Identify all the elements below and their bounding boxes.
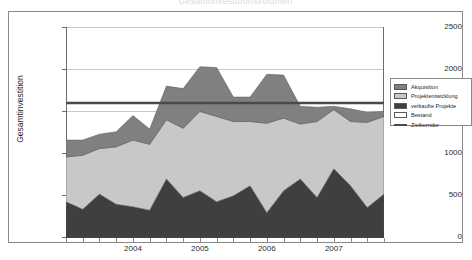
legend-item-bestand[interactable]: Bestand xyxy=(394,111,468,120)
ytick-label-0: 0 xyxy=(410,233,462,241)
xtick-label-2004: 2004 xyxy=(113,244,153,253)
legend-swatch-icon xyxy=(394,84,407,90)
xtick-mark xyxy=(284,238,285,242)
legend-label: Akquisition xyxy=(411,84,438,90)
legend-label: Bestand xyxy=(411,112,432,118)
xtick-mark xyxy=(384,238,385,242)
legend-item-projektentwicklung[interactable]: Projektentwicklung xyxy=(394,92,468,101)
xtick-mark xyxy=(166,238,167,242)
xtick-mark xyxy=(133,238,134,242)
legend-swatch-icon xyxy=(394,112,407,118)
series-areas xyxy=(66,27,384,238)
xtick-mark xyxy=(183,238,184,242)
xtick-mark xyxy=(334,238,335,242)
legend-item-akquisition[interactable]: Akquisition xyxy=(394,82,468,91)
ytick-label-2500: 2500 xyxy=(410,23,462,31)
chart-frame: Gesamtinvestition 2500 2000 1500 1000 50… xyxy=(8,11,463,243)
ytick-label-2000: 2000 xyxy=(410,65,462,73)
xtick-mark xyxy=(150,238,151,242)
legend-swatch-icon xyxy=(394,103,407,109)
chart-legend: AkquisitionProjektentwicklungverkaufte P… xyxy=(390,78,472,126)
xtick-label-2007: 2007 xyxy=(314,244,354,253)
xtick-mark xyxy=(217,238,218,242)
xtick-label-2006: 2006 xyxy=(247,244,287,253)
xtick-mark xyxy=(99,238,100,242)
ytick-label-500: 500 xyxy=(410,191,462,199)
legend-swatch-icon xyxy=(394,124,407,126)
xtick-mark xyxy=(267,238,268,242)
xtick-mark xyxy=(83,238,84,242)
chart-title: Gesamtinvestitionsvolumen xyxy=(0,0,471,7)
xtick-mark xyxy=(233,238,234,242)
xtick-mark xyxy=(367,238,368,242)
legend-item-zielkorridor[interactable]: Zielkorridor xyxy=(394,120,468,129)
legend-swatch-icon xyxy=(394,93,407,99)
legend-item-verkaufte-projekte[interactable]: verkaufte Projekte xyxy=(394,101,468,110)
xtick-mark xyxy=(300,238,301,242)
xtick-mark xyxy=(116,238,117,242)
xtick-mark xyxy=(200,238,201,242)
legend-label: Projektentwicklung xyxy=(411,93,458,99)
y-axis-title: Gesamtinvestition xyxy=(15,14,25,204)
legend-label: Zielkorridor xyxy=(411,122,439,128)
legend-label: verkaufte Projekte xyxy=(411,103,456,109)
ytick-label-1000: 1000 xyxy=(410,149,462,157)
xtick-mark xyxy=(317,238,318,242)
xtick-mark xyxy=(351,238,352,242)
xtick-label-2005: 2005 xyxy=(180,244,220,253)
xtick-mark xyxy=(250,238,251,242)
xtick-mark xyxy=(66,238,67,242)
